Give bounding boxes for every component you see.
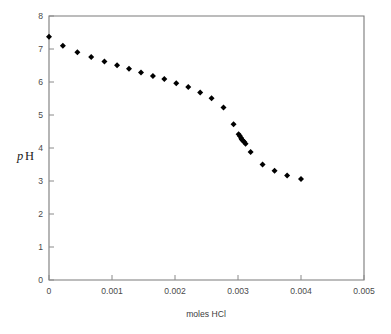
ph-titration-chart: 00.0010.0020.0030.0040.005 012345678 mol… [0, 0, 391, 334]
y-tick-label-3: 3 [38, 176, 43, 186]
y-axis-title-p: p [16, 149, 23, 163]
x-tick-label-3: 0.003 [227, 286, 249, 296]
y-tick-label-6: 6 [38, 77, 43, 87]
y-tick-label-8: 8 [38, 11, 43, 21]
y-axis-tick-labels: 012345678 [38, 11, 43, 285]
y-axis-title-h: H [25, 149, 34, 163]
y-tick-label-2: 2 [38, 209, 43, 219]
chart-canvas: 00.0010.0020.0030.0040.005 012345678 mol… [0, 0, 391, 334]
y-tick-label-4: 4 [38, 143, 43, 153]
x-tick-label-4: 0.004 [290, 286, 312, 296]
y-axis-title: p H [16, 149, 34, 163]
x-tick-label-5: 0.005 [353, 286, 375, 296]
y-tick-label-1: 1 [38, 242, 43, 252]
y-tick-label-5: 5 [38, 110, 43, 120]
y-tick-label-7: 7 [38, 44, 43, 54]
y-tick-label-0: 0 [38, 275, 43, 285]
x-axis-title: moles HCl [186, 309, 226, 319]
x-tick-label-1: 0.001 [101, 286, 123, 296]
chart-background [0, 0, 391, 334]
x-tick-label-0: 0 [47, 286, 52, 296]
x-tick-label-2: 0.002 [164, 286, 186, 296]
